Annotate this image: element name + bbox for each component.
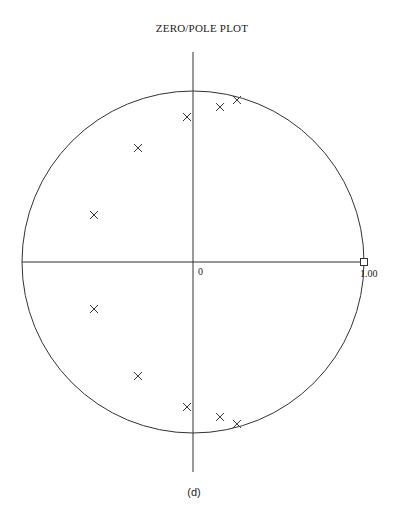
zero-x-icon <box>216 103 224 111</box>
zero-x-icon <box>183 113 191 121</box>
zero-x-icon <box>90 305 98 313</box>
zero-x-icon <box>90 211 98 219</box>
real-max-label: 1.00 <box>360 268 378 279</box>
pole-square-icon <box>361 259 368 266</box>
zero-pole-plot: 0 1.00 <box>0 0 404 523</box>
figure-caption: (d) <box>0 486 388 498</box>
zero-x-icon <box>216 413 224 421</box>
zero-x-icon <box>134 144 142 152</box>
zero-x-icon <box>233 96 241 104</box>
zero-x-icon <box>233 420 241 428</box>
origin-label: 0 <box>198 266 203 277</box>
zero-x-icon <box>183 403 191 411</box>
zero-x-icon <box>134 372 142 380</box>
